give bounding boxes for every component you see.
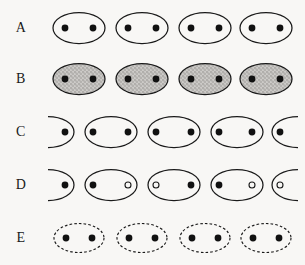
cell-group <box>148 170 200 201</box>
filled-dot <box>277 76 284 83</box>
filled-dot <box>89 235 96 242</box>
ellipse-outline <box>116 64 168 95</box>
filled-dot <box>125 25 132 32</box>
cell-group <box>240 13 292 44</box>
filled-dot <box>90 25 97 32</box>
cell-group <box>240 64 292 95</box>
filled-dot <box>188 129 195 136</box>
filled-dot <box>90 182 97 189</box>
open-dot <box>277 182 283 188</box>
filled-dot <box>216 76 223 83</box>
cell-group <box>53 13 105 44</box>
ellipse-outline <box>179 13 231 44</box>
partial-ellipse-outline <box>272 170 298 201</box>
open-dot <box>125 182 131 188</box>
filled-dot <box>153 76 160 83</box>
cell-group <box>85 170 137 201</box>
filled-dot <box>126 235 133 242</box>
open-dot <box>153 182 159 188</box>
cell-group <box>211 170 263 201</box>
cell-group <box>116 64 168 95</box>
filled-dot <box>277 25 284 32</box>
cell-group <box>48 170 74 201</box>
filled-dot <box>125 129 132 136</box>
ellipse-outline <box>54 224 104 253</box>
figure-row-e: E <box>0 212 305 264</box>
filled-dot <box>215 235 222 242</box>
partial-ellipse-outline <box>272 117 298 148</box>
cell-group <box>179 13 231 44</box>
row-shapes-b <box>0 53 305 105</box>
ellipse-grouping-figure: ABCDE <box>0 0 305 265</box>
filled-dot <box>276 235 283 242</box>
filled-dot <box>153 25 160 32</box>
cell-group <box>179 64 231 95</box>
figure-row-d: D <box>0 159 305 211</box>
filled-dot <box>90 76 97 83</box>
filled-dot <box>216 25 223 32</box>
cell-group <box>148 117 200 148</box>
filled-dot <box>216 129 223 136</box>
open-dot <box>249 182 255 188</box>
filled-dot <box>62 182 69 189</box>
cell-group <box>48 117 74 148</box>
filled-dot <box>188 25 195 32</box>
filled-dot <box>277 129 284 136</box>
filled-dot <box>188 76 195 83</box>
row-shapes-d <box>0 159 305 211</box>
cell-group <box>117 224 167 253</box>
ellipse-outline <box>116 13 168 44</box>
partial-ellipse-outline <box>48 117 74 148</box>
cell-group <box>241 224 291 253</box>
filled-dot <box>249 25 256 32</box>
ellipse-outline <box>179 64 231 95</box>
cell-group <box>116 13 168 44</box>
row-shapes-e <box>0 212 305 264</box>
filled-dot <box>250 235 257 242</box>
filled-dot <box>153 129 160 136</box>
cell-group <box>272 117 298 148</box>
filled-dot <box>62 76 69 83</box>
filled-dot <box>189 235 196 242</box>
filled-dot <box>249 76 256 83</box>
cell-group <box>54 224 104 253</box>
ellipse-outline <box>53 13 105 44</box>
filled-dot <box>249 129 256 136</box>
filled-dot <box>63 235 70 242</box>
ellipse-outline <box>180 224 230 253</box>
cell-group <box>180 224 230 253</box>
filled-dot <box>188 182 195 189</box>
cell-group <box>53 64 105 95</box>
filled-dot <box>125 76 132 83</box>
figure-row-b: B <box>0 53 305 105</box>
ellipse-outline <box>240 64 292 95</box>
row-shapes-a <box>0 2 305 54</box>
cell-group <box>211 117 263 148</box>
ellipse-outline <box>241 224 291 253</box>
ellipse-outline <box>117 224 167 253</box>
filled-dot <box>152 235 159 242</box>
filled-dot <box>62 129 69 136</box>
filled-dot <box>216 182 223 189</box>
filled-dot <box>90 129 97 136</box>
ellipse-outline <box>53 64 105 95</box>
ellipse-outline <box>240 13 292 44</box>
cell-group <box>85 117 137 148</box>
filled-dot <box>62 25 69 32</box>
partial-ellipse-outline <box>48 170 74 201</box>
cell-group <box>272 170 298 201</box>
row-shapes-c <box>0 106 305 158</box>
figure-row-c: C <box>0 106 305 158</box>
figure-row-a: A <box>0 2 305 54</box>
